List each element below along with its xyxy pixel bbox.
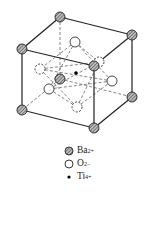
legend: Ba2+ O2− Ti4+ bbox=[64, 144, 94, 183]
titanium-atom bbox=[74, 71, 78, 75]
legend-o: O2− bbox=[64, 157, 94, 170]
dot-icon bbox=[64, 172, 74, 182]
legend-ti: Ti4+ bbox=[64, 170, 94, 183]
open-circle-icon bbox=[64, 159, 74, 169]
hatched-circle-icon bbox=[64, 146, 74, 156]
legend-ba: Ba2+ bbox=[64, 144, 94, 157]
